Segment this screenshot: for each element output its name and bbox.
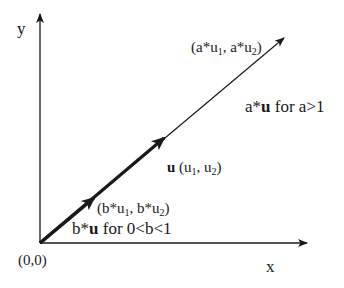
a-caption: a*u for a>1 bbox=[245, 98, 324, 115]
x-axis-label: x bbox=[266, 258, 275, 275]
vector-diagram bbox=[0, 0, 344, 288]
a-point-label: (a*u1, a*u2) bbox=[191, 40, 262, 55]
u-label: u (u1, u2) bbox=[167, 160, 222, 175]
b-point-label: (b*u1, b*u2) bbox=[97, 201, 170, 216]
y-axis-label: y bbox=[17, 20, 26, 37]
b-caption: b*u for 0<b<1 bbox=[72, 220, 171, 237]
origin-label: (0,0) bbox=[18, 253, 47, 268]
